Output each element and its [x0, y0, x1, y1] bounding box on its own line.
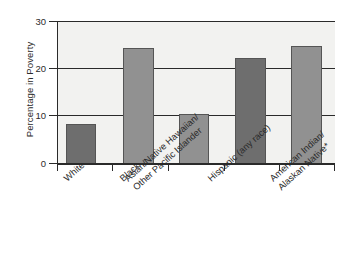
- y-tick-mark-20: [49, 68, 57, 69]
- y-tick-mark-0: [49, 163, 57, 164]
- y-tick-label-0: 0: [6, 158, 46, 169]
- plot-area: [57, 21, 335, 164]
- y-tick-label-20: 20: [6, 63, 46, 74]
- y-tick-mark-10: [49, 115, 57, 116]
- y-tick-mark-30: [49, 21, 57, 22]
- y-tick-label-30: 30: [6, 16, 46, 27]
- bar-white: [66, 124, 96, 164]
- y-axis-title: Percentage in Poverty: [24, 15, 35, 165]
- x-tick-mark-1: [112, 164, 113, 171]
- bar-black: [123, 48, 154, 164]
- x-tick-mark-0: [57, 164, 58, 171]
- poverty-bar-chart: Percentage in Poverty 30 20 10 0 White B…: [0, 0, 361, 264]
- x-tick-mark-5: [334, 164, 335, 171]
- y-tick-label-10: 10: [6, 110, 46, 121]
